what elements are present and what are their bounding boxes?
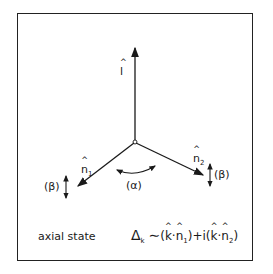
l-vector-label: l bbox=[120, 66, 123, 77]
beta-right-label: (β) bbox=[214, 169, 230, 180]
alpha-rotation-arrow bbox=[117, 166, 155, 173]
beta-left-label: (β) bbox=[44, 181, 60, 192]
formula: Δk ∼(k·n1)+i(k·n2) bbox=[131, 228, 238, 245]
alpha-label: (α) bbox=[126, 180, 142, 191]
axial-state-label: axial state bbox=[38, 231, 95, 242]
n2-vector-label: n2 bbox=[193, 153, 204, 167]
n1-vector-label: n1 bbox=[81, 164, 92, 178]
vertex-marker bbox=[133, 140, 137, 144]
